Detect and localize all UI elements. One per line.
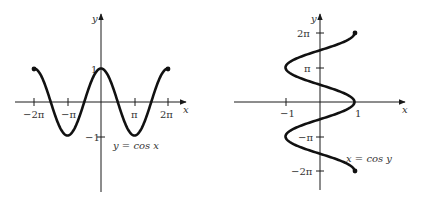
left-xtick-label-pi: π (131, 109, 138, 120)
right-ytick-label-pi: π (304, 63, 311, 74)
bottom-endpoint-dot (353, 169, 358, 174)
right-ytick-label-2pi: 2π (297, 28, 310, 39)
right-ytick-label-neg2pi: −2π (291, 166, 313, 177)
right-x-axis-label: x (402, 104, 408, 115)
left-x-axis-label: x (183, 104, 189, 115)
left-xtick-label-neg2pi: −2π (23, 109, 45, 120)
right-y-axis-label: y (310, 13, 317, 24)
left-y-axis-label: y (91, 13, 98, 24)
right-xtick-label-neg1: −1 (280, 108, 295, 119)
right-curve-annotation: x = cos y (346, 153, 392, 164)
left-plot: x y −2π −π π 2π 1 −1 y = cos x (15, 13, 189, 192)
left-endpoint-dot (32, 67, 37, 72)
right-ytick-label-negpi: −π (298, 132, 313, 143)
left-xtick-label-2pi: 2π (160, 109, 173, 120)
left-xtick-label-negpi: −π (61, 109, 76, 120)
top-endpoint-dot (353, 31, 358, 36)
right-endpoint-dot (166, 67, 171, 72)
right-xtick-label-1: 1 (355, 108, 361, 119)
left-curve-annotation: y = cos x (112, 140, 159, 151)
figure: x y −2π −π π 2π 1 −1 y = cos x x y −1 1 (0, 0, 425, 199)
right-plot: x y −1 1 2π π −π −2π x = cos y (234, 13, 408, 190)
left-ytick-label-neg1: −1 (85, 132, 100, 143)
